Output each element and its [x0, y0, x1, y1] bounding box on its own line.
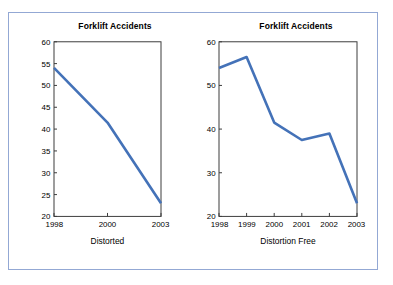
x-tick-label: 1999 [238, 220, 256, 229]
y-tick-label: 60 [42, 38, 51, 47]
y-tick-label: 25 [42, 191, 51, 200]
x-tick-label: 2003 [152, 220, 170, 229]
x-tick-label: 1998 [46, 220, 64, 229]
y-tick-label: 50 [207, 81, 216, 90]
y-tick-label: 40 [207, 125, 216, 134]
chart-distorted: Forklift Accidents 202530354045505560199… [13, 13, 193, 269]
plot-labels-distortion-free: 2030405060199819992000200120022003Distor… [193, 13, 379, 269]
y-tick-label: 50 [42, 81, 51, 90]
x-tick-label: 1998 [211, 220, 229, 229]
x-axis-caption: Distorted [91, 236, 125, 246]
x-tick-label: 2000 [265, 220, 283, 229]
y-tick-label: 40 [42, 125, 51, 134]
x-axis-caption: Distortion Free [260, 236, 316, 246]
y-tick-label: 45 [42, 103, 51, 112]
x-tick-label: 2001 [293, 220, 311, 229]
y-tick-label: 30 [42, 169, 51, 178]
x-tick-label: 2002 [320, 220, 338, 229]
plot-labels-distorted: 202530354045505560199820002003Distorted [13, 13, 193, 269]
y-tick-label: 30 [207, 169, 216, 178]
y-tick-label: 60 [207, 38, 216, 47]
figure-frame: Forklift Accidents 202530354045505560199… [8, 12, 378, 270]
chart-distortion-free: Forklift Accidents 203040506019981999200… [193, 13, 379, 269]
x-tick-label: 2000 [99, 220, 117, 229]
x-tick-label: 2003 [348, 220, 366, 229]
y-tick-label: 35 [42, 147, 51, 156]
y-tick-label: 55 [42, 60, 51, 69]
